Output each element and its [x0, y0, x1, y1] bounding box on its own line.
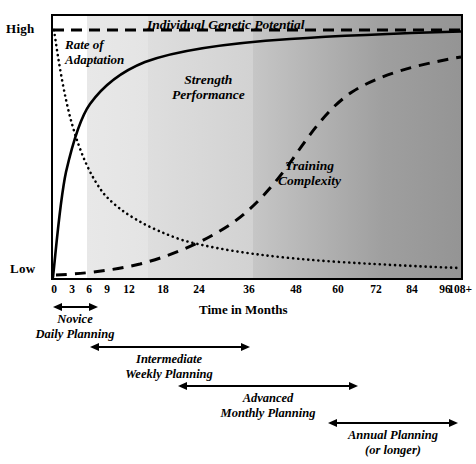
- phase-arrow-novice: [53, 303, 98, 311]
- label-training-complexity: Training Complexity: [278, 158, 341, 188]
- phase-caption-novice: Novice Daily Planning: [36, 312, 115, 342]
- phase-advanced-planning: Monthly Planning: [221, 406, 316, 421]
- x-tick-3: 3: [69, 283, 75, 295]
- x-tick-60: 60: [332, 283, 344, 295]
- x-axis-title: Time in Months: [199, 302, 288, 318]
- x-tick-72: 72: [370, 283, 382, 295]
- phase-caption-annual: Annual Planning (or longer): [348, 428, 438, 458]
- training-complexity-curve: [56, 57, 461, 275]
- phase-caption-intermediate: Intermediate Weekly Planning: [125, 352, 213, 382]
- x-tick-9: 9: [104, 283, 110, 295]
- x-tick-108plus: 108+: [448, 283, 472, 295]
- phase-advanced-level: Advanced: [221, 391, 316, 406]
- phase-caption-advanced: Advanced Monthly Planning: [221, 391, 316, 421]
- label-training-line1: Training: [278, 158, 341, 173]
- x-tick-48: 48: [290, 283, 302, 295]
- label-strength-performance: Strength Performance: [172, 72, 245, 102]
- phase-intermediate-level: Intermediate: [125, 352, 213, 367]
- label-strength-line2: Performance: [172, 87, 245, 102]
- phase-arrow-advanced: [178, 382, 358, 390]
- x-tick-84: 84: [406, 283, 418, 295]
- x-tick-36: 36: [243, 283, 255, 295]
- phase-annual-planning: (or longer): [348, 443, 438, 458]
- phase-arrow-annual: [328, 419, 458, 427]
- label-genetic-potential: Individual Genetic Potential: [147, 17, 305, 32]
- x-tick-24: 24: [193, 283, 205, 295]
- y-axis-low-label: Low: [10, 261, 35, 277]
- y-axis-high-label: High: [6, 21, 35, 37]
- phase-arrow-intermediate: [90, 343, 250, 351]
- label-training-line2: Complexity: [278, 173, 341, 188]
- label-rate-line2: Adaptation: [65, 53, 124, 68]
- x-tick-6: 6: [86, 283, 92, 295]
- phase-novice-level: Novice: [36, 312, 115, 327]
- training-progression-chart: High Low 0 3 6 9 12 18 24 36 48 60 72 84…: [0, 0, 476, 464]
- label-rate-of-adaptation: Rate of Adaptation: [65, 38, 124, 67]
- strength-performance-curve: [53, 32, 461, 278]
- label-rate-line1: Rate of: [65, 38, 124, 53]
- x-tick-18: 18: [157, 283, 169, 295]
- x-tick-0: 0: [51, 283, 57, 295]
- x-tick-12: 12: [123, 283, 135, 295]
- phase-intermediate-planning: Weekly Planning: [125, 367, 213, 382]
- phase-novice-planning: Daily Planning: [36, 327, 115, 342]
- label-strength-line1: Strength: [172, 72, 245, 87]
- phase-annual-level: Annual Planning: [348, 428, 438, 443]
